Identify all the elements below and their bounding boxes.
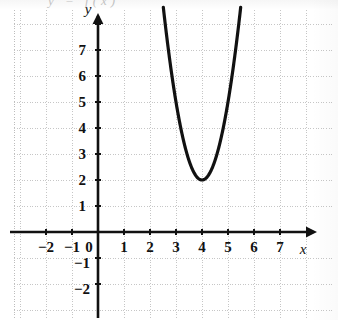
- x-tick-label-7: 7: [276, 239, 284, 255]
- y-tick-label--2: −2: [74, 281, 90, 297]
- x-axis-arrowhead: [306, 227, 317, 238]
- y-tick-label--1: −1: [74, 255, 90, 271]
- y-tick-label-5: 5: [79, 94, 87, 110]
- graph-figure: y = f(x): [0, 0, 338, 320]
- x-tick-label-6: 6: [250, 239, 258, 255]
- y-tick-label-6: 6: [79, 68, 87, 84]
- x-tick-label-5: 5: [224, 239, 232, 255]
- x-tick-label-2: 2: [146, 239, 154, 255]
- y-axis-arrowhead: [93, 13, 104, 24]
- x-tick-label--1: −1: [64, 239, 80, 255]
- y-tick-label-4: 4: [79, 120, 87, 136]
- x-tick-label-0: 0: [85, 239, 93, 255]
- axes: [10, 16, 308, 318]
- x-tick-label--2: −2: [38, 239, 54, 255]
- cropped-title-text: y = f(x): [48, 0, 119, 9]
- x-axis-label: x: [299, 241, 307, 257]
- grid-lines: [14, 10, 334, 318]
- x-tick-label-4: 4: [198, 239, 206, 255]
- x-tick-label-1: 1: [120, 239, 128, 255]
- y-tick-label-1: 1: [79, 198, 87, 214]
- y-tick-label-7: 7: [79, 42, 87, 58]
- y-tick-label-2: 2: [79, 172, 87, 188]
- coordinate-plane: −2 −1 0 1 2 3 4 5 6 7 7 6 5 4 3 2 1 −1 −…: [0, 0, 338, 320]
- x-tick-label-3: 3: [172, 239, 180, 255]
- y-tick-label-3: 3: [79, 146, 87, 162]
